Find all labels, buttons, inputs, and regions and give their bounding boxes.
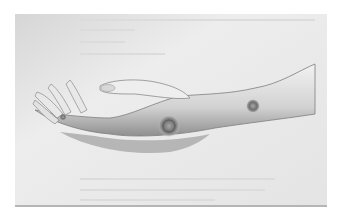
hand-illustration [15,14,327,207]
illustration-plate [15,14,327,207]
lesion-finger [60,114,67,121]
lesion-palm [158,115,180,137]
lesion-wrist [246,99,260,113]
